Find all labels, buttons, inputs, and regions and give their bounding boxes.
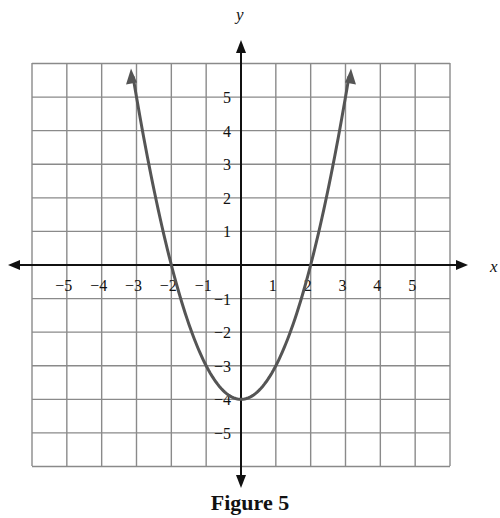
x-axis-label: x [489, 257, 498, 276]
svg-text:1: 1 [269, 277, 277, 294]
svg-text:−3: −3 [125, 277, 142, 294]
svg-text:−4: −4 [90, 277, 107, 294]
svg-text:4: 4 [373, 277, 381, 294]
svg-text:3: 3 [223, 156, 231, 173]
axes [8, 40, 468, 488]
svg-text:−1: −1 [214, 291, 231, 308]
svg-text:−2: −2 [214, 324, 231, 341]
svg-text:1: 1 [223, 223, 231, 240]
svg-text:5: 5 [408, 277, 416, 294]
svg-text:5: 5 [223, 89, 231, 106]
figure-caption: Figure 5 [0, 490, 500, 516]
svg-text:3: 3 [339, 277, 347, 294]
svg-text:−5: −5 [55, 277, 72, 294]
svg-text:−1: −1 [195, 277, 212, 294]
svg-text:4: 4 [223, 123, 231, 140]
svg-text:−5: −5 [214, 425, 231, 442]
y-axis-label: y [234, 5, 244, 24]
svg-text:−3: −3 [214, 358, 231, 375]
chart-canvas: −5−4−3−2−11234554321−1−2−3−4−5 x y [0, 0, 500, 518]
svg-text:2: 2 [223, 190, 231, 207]
